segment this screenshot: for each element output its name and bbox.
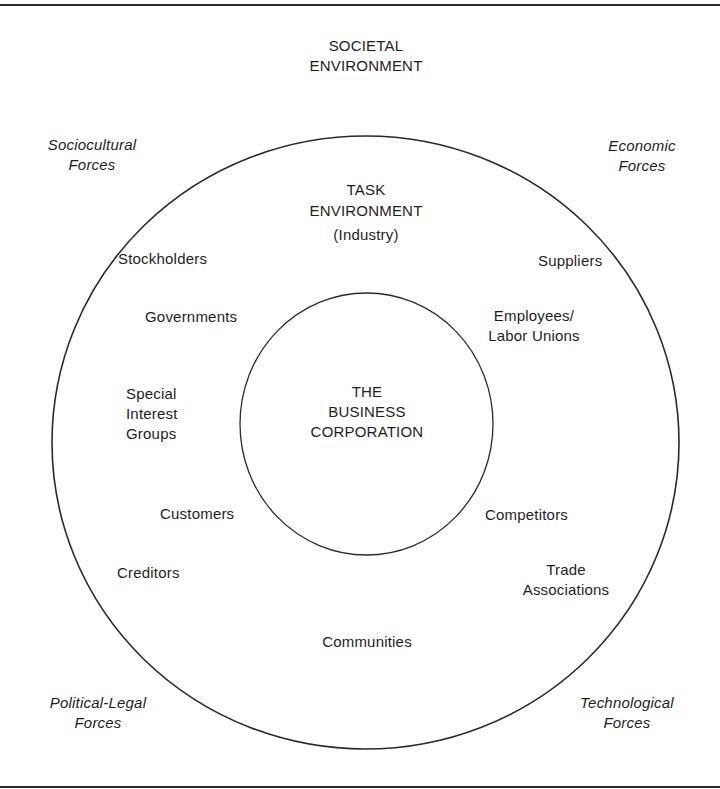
societal-line-1: SOCIETAL	[309, 36, 422, 56]
stakeholder-customers: Customers	[160, 504, 234, 524]
stakeholder-trade-associations: Trade Associations	[523, 560, 610, 600]
business-corporation-label: THE BUSINESS CORPORATION	[311, 382, 424, 442]
stakeholder-creditors: Creditors	[117, 563, 180, 583]
political-legal-line-2: Forces	[50, 713, 146, 733]
technological-forces-label: Technological Forces	[580, 693, 674, 733]
political-legal-forces-label: Political-Legal Forces	[50, 693, 146, 733]
stakeholder-suppliers: Suppliers	[538, 251, 602, 271]
employees-line-1: Employees/	[488, 306, 580, 326]
sociocultural-line-1: Sociocultural	[48, 135, 136, 155]
sociocultural-line-2: Forces	[48, 155, 136, 175]
stakeholder-employees-labor-unions: Employees/ Labor Unions	[488, 306, 580, 346]
core-line-3: CORPORATION	[311, 422, 424, 442]
economic-line-1: Economic	[608, 136, 675, 156]
special-interest-line-3: Groups	[126, 424, 178, 444]
sociocultural-forces-label: Sociocultural Forces	[48, 135, 136, 175]
task-line-1: TASK	[309, 179, 422, 200]
trade-line-1: Trade	[523, 560, 610, 580]
stakeholder-stockholders: Stockholders	[118, 249, 207, 269]
trade-line-2: Associations	[523, 580, 610, 600]
task-line-2: ENVIRONMENT	[309, 200, 422, 221]
stakeholder-competitors: Competitors	[485, 505, 568, 525]
task-line-industry: (Industry)	[309, 224, 422, 245]
technological-line-2: Forces	[580, 713, 674, 733]
special-interest-line-1: Special	[126, 384, 178, 404]
economic-line-2: Forces	[608, 156, 675, 176]
technological-line-1: Technological	[580, 693, 674, 713]
core-line-1: THE	[311, 382, 424, 402]
task-environment-title: TASK ENVIRONMENT (Industry)	[309, 179, 422, 245]
societal-line-2: ENVIRONMENT	[309, 56, 422, 76]
employees-line-2: Labor Unions	[488, 326, 580, 346]
societal-environment-title: SOCIETAL ENVIRONMENT	[309, 36, 422, 76]
special-interest-line-2: Interest	[126, 404, 178, 424]
political-legal-line-1: Political-Legal	[50, 693, 146, 713]
core-line-2: BUSINESS	[311, 402, 424, 422]
stakeholder-special-interest-groups: Special Interest Groups	[126, 384, 178, 444]
economic-forces-label: Economic Forces	[608, 136, 675, 176]
stakeholder-governments: Governments	[145, 307, 237, 327]
stakeholder-communities: Communities	[322, 632, 412, 652]
